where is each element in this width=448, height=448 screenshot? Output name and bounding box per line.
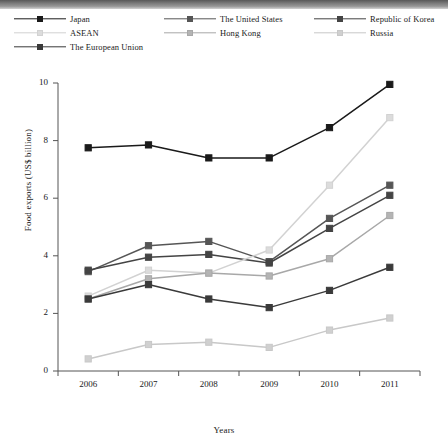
x-tick-label: 2007 xyxy=(119,379,179,389)
y-tick-label: 4 xyxy=(26,250,48,260)
x-tick-label: 2009 xyxy=(239,379,299,389)
y-tick-label: 8 xyxy=(26,135,48,145)
y-tick-label: 10 xyxy=(26,77,48,87)
x-axis-title: Years xyxy=(0,425,448,435)
x-tick-label: 2011 xyxy=(360,379,420,389)
y-tick-label: 0 xyxy=(26,365,48,375)
x-tick-label: 2008 xyxy=(179,379,239,389)
x-tick-label: 2006 xyxy=(58,379,118,389)
y-tick-label: 6 xyxy=(26,192,48,202)
x-tick-label: 2010 xyxy=(300,379,360,389)
y-tick-label: 2 xyxy=(26,307,48,317)
chart-page: Japan The United States Republic of Kore… xyxy=(0,0,448,448)
plot-area: Food exports (US$ billion) Years 0246810… xyxy=(0,0,448,448)
y-axis-title: Food exports (US$ billion) xyxy=(23,100,33,260)
